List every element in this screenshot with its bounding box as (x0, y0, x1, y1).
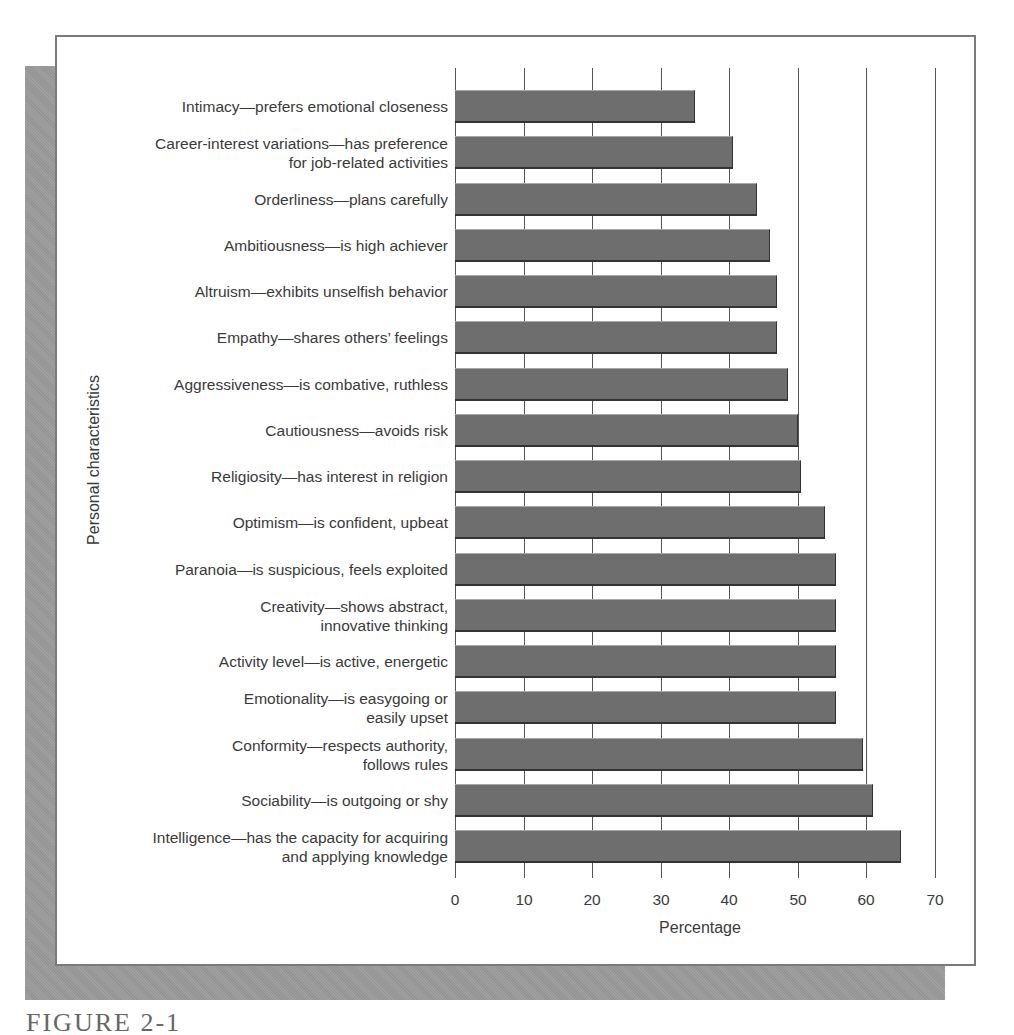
category-label-line: Altruism—exhibits unselfish behavior (195, 282, 448, 301)
category-label-line: Orderliness—plans carefully (254, 190, 448, 209)
category-label: Paranoia—is suspicious, feels exploited (175, 560, 448, 579)
bar (455, 414, 798, 447)
category-label-line: Ambitiousness—is high achiever (224, 236, 448, 255)
category-label-line: Optimism—is confident, upbeat (233, 513, 448, 532)
bar (455, 599, 836, 632)
category-label-line: follows rules (232, 755, 448, 774)
x-axis-title: Percentage (620, 919, 780, 937)
category-label-line: Sociability—is outgoing or shy (241, 791, 448, 810)
bar (455, 784, 873, 817)
category-label: Creativity—shows abstract,innovative thi… (260, 597, 448, 635)
y-axis-title: Personal characteristics (85, 375, 103, 545)
category-label-line: Career-interest variations—has preferenc… (155, 134, 448, 153)
category-label-line: Religiosity—has interest in religion (211, 467, 448, 486)
category-label-line: innovative thinking (260, 616, 448, 635)
category-label: Aggressiveness—is combative, ruthless (174, 375, 448, 394)
category-label: Optimism—is confident, upbeat (233, 513, 448, 532)
bar (455, 90, 695, 123)
bar (455, 738, 863, 771)
category-label-line: for job-related activities (155, 153, 448, 172)
category-label: Conformity—respects authority,follows ru… (232, 736, 448, 774)
category-label-line: Intelligence—has the capacity for acquir… (152, 828, 448, 847)
category-label-line: easily upset (244, 708, 448, 727)
category-label: Ambitiousness—is high achiever (224, 236, 448, 255)
bar (455, 645, 836, 678)
category-label: Emotionality—is easygoing oreasily upset (244, 689, 448, 727)
category-label-line: Emotionality—is easygoing or (244, 689, 448, 708)
bar (455, 321, 777, 354)
bar (455, 275, 777, 308)
x-tick-label: 20 (572, 891, 612, 909)
category-label: Cautiousness—avoids risk (265, 421, 448, 440)
category-label-line: and applying knowledge (152, 847, 448, 866)
category-label: Religiosity—has interest in religion (211, 467, 448, 486)
x-tick-label: 50 (778, 891, 818, 909)
category-label-line: Aggressiveness—is combative, ruthless (174, 375, 448, 394)
gridline (935, 68, 936, 878)
gridline (866, 68, 867, 878)
category-label-line: Conformity—respects authority, (232, 736, 448, 755)
category-label-line: Activity level—is active, energetic (219, 652, 448, 671)
category-label: Empathy—shares others’ feelings (217, 328, 448, 347)
category-label-line: Cautiousness—avoids risk (265, 421, 448, 440)
category-label: Sociability—is outgoing or shy (241, 791, 448, 810)
category-label: Orderliness—plans carefully (254, 190, 448, 209)
bar (455, 460, 801, 493)
x-tick-label: 10 (504, 891, 544, 909)
category-label: Altruism—exhibits unselfish behavior (195, 282, 448, 301)
category-label: Career-interest variations—has preferenc… (155, 134, 448, 172)
x-tick-label: 60 (846, 891, 886, 909)
x-tick-label: 70 (915, 891, 955, 909)
category-label-line: Creativity—shows abstract, (260, 597, 448, 616)
category-label: Intelligence—has the capacity for acquir… (152, 828, 448, 866)
bar (455, 229, 770, 262)
bar (455, 830, 901, 863)
category-label-line: Intimacy—prefers emotional closeness (182, 97, 448, 116)
bar (455, 553, 836, 586)
bar (455, 506, 825, 539)
category-label-line: Empathy—shares others’ feelings (217, 328, 448, 347)
x-tick-label: 0 (435, 891, 475, 909)
bar (455, 368, 788, 401)
figure-caption: FIGURE 2-1 (26, 1008, 181, 1035)
x-tick-label: 30 (641, 891, 681, 909)
x-tick-label: 40 (709, 891, 749, 909)
category-label: Activity level—is active, energetic (219, 652, 448, 671)
category-label-line: Paranoia—is suspicious, feels exploited (175, 560, 448, 579)
bar (455, 183, 757, 216)
bar (455, 136, 733, 169)
bar (455, 691, 836, 724)
category-label: Intimacy—prefers emotional closeness (182, 97, 448, 116)
